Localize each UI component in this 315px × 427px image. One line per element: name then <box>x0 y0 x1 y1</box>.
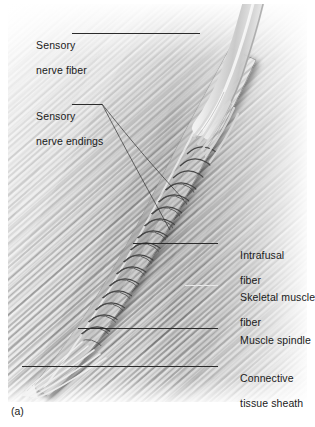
label-skeletal-muscle-fiber-line1: Skeletal muscle <box>240 291 315 303</box>
label-connective-tissue-sheath-line1: Connective <box>240 372 294 384</box>
label-muscle-spindle-line1: Muscle spindle <box>240 334 311 346</box>
leader-sensory-nerve-fiber <box>72 33 200 34</box>
label-sensory-nerve-endings-line2: nerve endings <box>36 135 103 147</box>
label-sensory-nerve-fiber-line1: Sensory <box>36 39 75 51</box>
label-layer: Sensory nerve fiber Sensory nerve ending… <box>0 0 315 427</box>
figure-root: Sensory nerve fiber Sensory nerve ending… <box>0 0 315 427</box>
label-sensory-nerve-endings-line1: Sensory <box>36 110 75 122</box>
label-intrafusal-fiber-line1: Intrafusal <box>240 249 284 261</box>
label-sensory-nerve-fiber: Sensory nerve fiber <box>18 26 87 89</box>
leader-connective-tissue-sheath <box>22 366 218 367</box>
figure-caption: (a) <box>11 405 24 417</box>
label-connective-tissue-sheath: Connective tissue sheath <box>222 359 303 422</box>
label-connective-tissue-sheath-line2: tissue sheath <box>240 397 303 409</box>
leader-intrafusal-fiber <box>133 243 218 244</box>
label-muscle-spindle: Muscle spindle <box>222 321 311 359</box>
label-sensory-nerve-fiber-line2: nerve fiber <box>36 64 87 76</box>
leader-skeletal-muscle-fiber <box>185 285 218 286</box>
leader-muscle-spindle <box>78 328 218 329</box>
label-sensory-nerve-endings: Sensory nerve endings <box>18 97 103 160</box>
